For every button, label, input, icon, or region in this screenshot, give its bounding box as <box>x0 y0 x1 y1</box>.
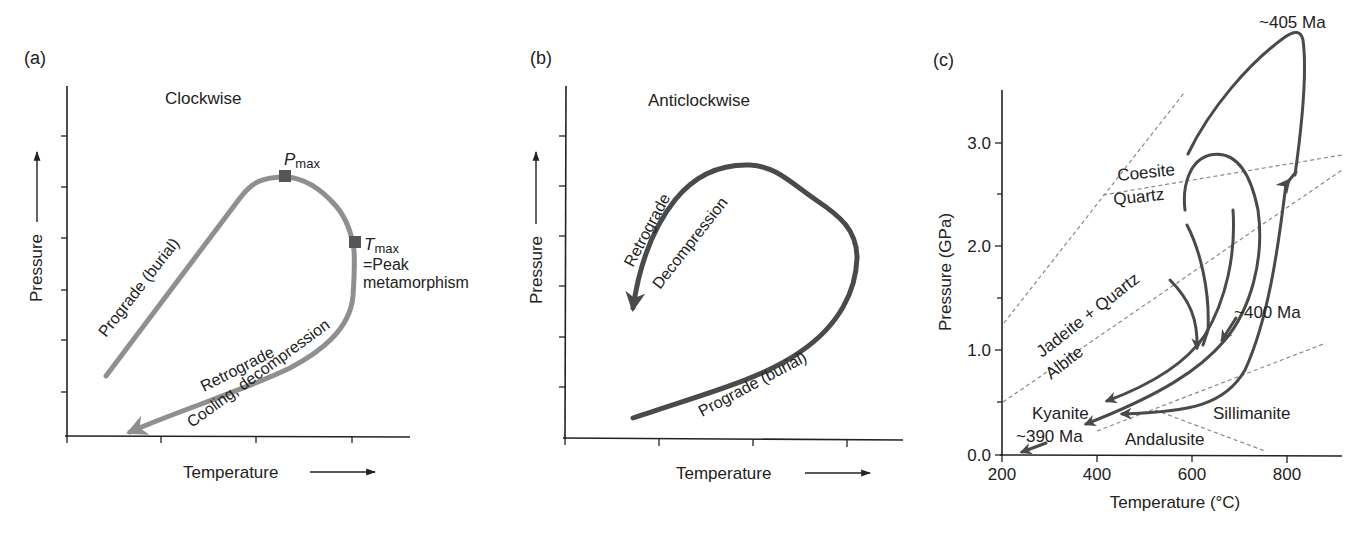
panel-b-tag: (b) <box>530 48 552 68</box>
panel-a: (a) Clockwise Pressure Temperature <box>24 48 469 482</box>
panel-a-title: Clockwise <box>165 89 242 108</box>
svg-text:Pressure: Pressure <box>27 234 46 302</box>
figure-canvas: (a) Clockwise Pressure Temperature <box>0 0 1371 540</box>
peak-label-line1: =Peak <box>363 256 410 273</box>
panel-a-y-ticks <box>61 136 67 392</box>
label-andalusite: Andalusite <box>1125 430 1204 449</box>
path-580c <box>1187 225 1208 345</box>
reaction-line-steep <box>1004 93 1184 323</box>
svg-text:Pressure: Pressure <box>527 236 546 304</box>
outer-loop-path <box>1188 32 1304 175</box>
path-690c <box>1107 210 1234 401</box>
outer-loop-lower <box>1122 184 1286 414</box>
panel-b-title: Anticlockwise <box>648 91 750 110</box>
outer-loop-descent <box>1286 172 1296 184</box>
reaction-lines <box>1003 93 1342 451</box>
svg-text:400: 400 <box>1083 465 1111 484</box>
tmax-marker <box>349 236 361 248</box>
svg-text:200: 200 <box>988 465 1016 484</box>
svg-text:800: 800 <box>1273 465 1301 484</box>
svg-text:2.0: 2.0 <box>967 237 991 256</box>
panel-a-y-label: Pressure <box>27 152 46 302</box>
pmax-label: Pmax <box>284 150 320 171</box>
svg-text:3.0: 3.0 <box>967 134 991 153</box>
svg-text:0.0: 0.0 <box>967 446 991 465</box>
panel-c-y-label: Pressure (GPa) <box>936 213 955 331</box>
peak-label-line2: metamorphism <box>363 274 469 291</box>
svg-text:Temperature: Temperature <box>676 464 771 483</box>
panel-c-y-tick-labels: 3.0 2.0 1.0 0.0 <box>967 134 991 465</box>
panel-c-x-label: Temperature (°C) <box>1110 493 1241 512</box>
tmax-label: Tmax <box>364 235 399 256</box>
path-530c <box>1170 280 1197 348</box>
panel-c-x-axis <box>1000 455 1342 456</box>
svg-text:1.0: 1.0 <box>967 341 991 360</box>
panel-a-tag: (a) <box>24 48 46 68</box>
panel-b-y-label: Pressure <box>527 152 546 304</box>
pmax-marker <box>279 170 291 182</box>
panel-a-x-label: Temperature <box>183 463 375 482</box>
panel-b: (b) Anticlockwise Pressure Temperature <box>527 48 903 483</box>
panel-a-cooling-label: Cooling, decompression <box>184 316 333 431</box>
label-kyanite: Kyanite <box>1032 404 1089 423</box>
panel-c-paths <box>1022 32 1304 452</box>
label-quartz: Quartz <box>1112 185 1165 209</box>
label-405ma: ~405 Ma <box>1259 13 1326 32</box>
panel-c: (c) 3.0 2.0 1 <box>933 13 1342 512</box>
panel-c-tag: (c) <box>933 50 954 70</box>
panel-b-y-axis <box>565 86 566 439</box>
svg-text:Temperature: Temperature <box>183 463 278 482</box>
panel-a-x-axis <box>65 436 410 437</box>
label-400ma: ~400 Ma <box>1234 303 1301 322</box>
panel-a-prograde-label: Prograde (burial) <box>95 235 182 340</box>
label-coesite: Coesite <box>1116 160 1175 185</box>
label-390ma: ~390 Ma <box>1016 427 1083 446</box>
label-jadeite-quartz: Jadeite + Quartz <box>1033 269 1143 361</box>
label-sillimanite: Sillimanite <box>1213 404 1290 423</box>
panel-c-x-tick-labels: 200 400 600 800 <box>988 465 1301 484</box>
panel-b-x-axis <box>563 438 903 440</box>
panel-b-x-label: Temperature <box>676 464 870 483</box>
svg-text:600: 600 <box>1178 465 1206 484</box>
panel-b-prograde-label: Prograde (burial) <box>695 348 809 419</box>
panel-c-y-ticks <box>995 143 1002 455</box>
